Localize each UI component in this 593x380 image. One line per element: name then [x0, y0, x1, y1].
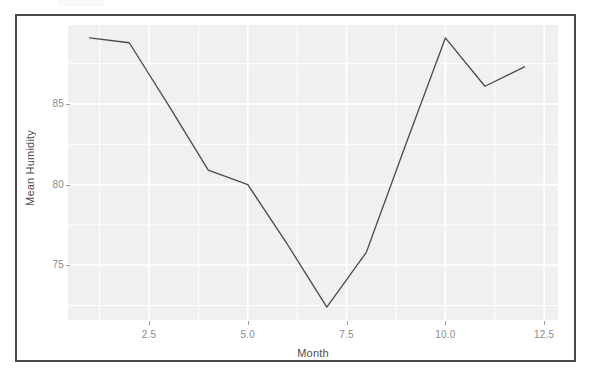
x-axis-tick-label: 7.5 — [327, 329, 367, 340]
y-axis-tick-label: 85 — [38, 98, 64, 109]
y-axis-tick-mark — [66, 265, 70, 266]
plot-canvas — [0, 0, 593, 380]
x-axis-tick-label: 5.0 — [228, 329, 268, 340]
line-chart: 758085 2.55.07.510.012.5 Mean Humidity M… — [0, 0, 593, 380]
x-axis-tick-mark — [149, 321, 150, 325]
x-axis-title: Month — [68, 347, 558, 359]
y-axis-tick-mark — [66, 185, 70, 186]
y-axis-tick-mark — [66, 104, 70, 105]
x-axis-tick-mark — [544, 321, 545, 325]
y-axis-tick-label: 75 — [38, 259, 64, 270]
x-axis-tick-mark — [445, 321, 446, 325]
x-axis-tick-label: 12.5 — [524, 329, 564, 340]
x-axis-tick-mark — [347, 321, 348, 325]
x-axis-tick-label: 2.5 — [129, 329, 169, 340]
x-axis-tick-label: 10.0 — [425, 329, 465, 340]
plot-panel-background — [68, 25, 558, 320]
figure-root: 758085 2.55.07.510.012.5 Mean Humidity M… — [0, 0, 593, 380]
x-axis-tick-mark — [248, 321, 249, 325]
y-axis-title: Mean Humidity — [24, 130, 42, 206]
